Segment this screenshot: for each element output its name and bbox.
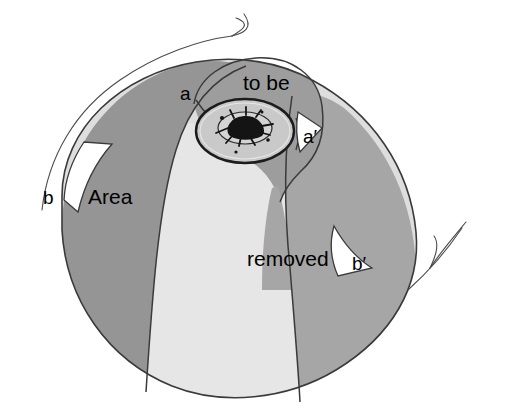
lower-fork-branch-2: [430, 222, 466, 268]
label-to-be: to be: [243, 72, 290, 93]
areola-group: [196, 99, 294, 163]
nipple-speck-2: [266, 138, 270, 142]
label-area: Area: [88, 186, 132, 207]
figure-illustration: [0, 0, 506, 419]
label-b: b: [43, 188, 54, 207]
upper-fork-branch-1: [232, 18, 244, 36]
nipple-speck-1: [220, 116, 224, 120]
nipple-speck-4: [261, 111, 264, 114]
surgical-excision-figure: a a′ b b′ to be Area removed: [0, 0, 506, 419]
label-removed: removed: [247, 248, 329, 269]
nipple-speck-3: [234, 150, 237, 153]
label-b-prime: b′: [352, 254, 366, 273]
upper-fork-branch-2: [232, 14, 248, 36]
label-a: a: [180, 84, 191, 103]
label-a-prime: a′: [303, 127, 317, 146]
